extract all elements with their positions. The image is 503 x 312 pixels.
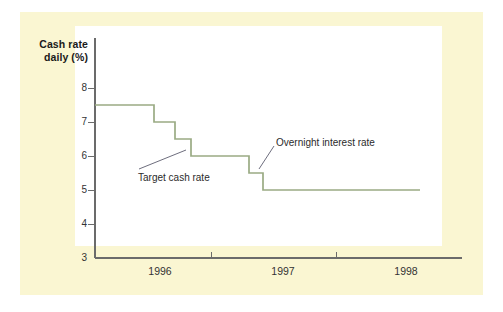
leader-line-target-cash-rate: [139, 150, 186, 169]
chart-figure: Cash rate daily (%) 8 7 6 5 4 3 1996 199…: [0, 0, 503, 312]
leader-lines-group: [139, 146, 274, 169]
chart-vector-layer: [0, 0, 503, 312]
series-overnight-interest-rate: [95, 105, 420, 190]
axes-group: [88, 38, 462, 258]
leader-line-overnight-interest-rate: [259, 146, 274, 169]
